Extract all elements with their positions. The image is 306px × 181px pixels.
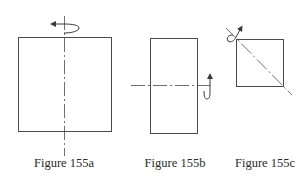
figure-diagram bbox=[0, 0, 306, 181]
caption-figure-155c: Figure 155c bbox=[235, 156, 295, 171]
rectangle-b bbox=[151, 39, 198, 134]
figure-155a bbox=[19, 16, 112, 156]
square-a bbox=[19, 38, 112, 132]
caption-figure-155b: Figure 155b bbox=[145, 156, 206, 171]
figure-155b bbox=[131, 39, 210, 134]
rotation-arrow-icon bbox=[204, 76, 210, 99]
figure-155c bbox=[226, 28, 292, 95]
caption-figure-155a: Figure 155a bbox=[34, 156, 94, 171]
rotation-arrow-icon bbox=[53, 24, 79, 33]
